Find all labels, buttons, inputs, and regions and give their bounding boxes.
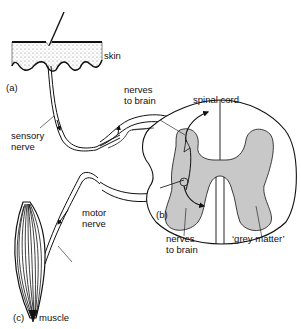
spinal-cord <box>143 100 297 244</box>
label-part-c: (c) <box>13 313 24 323</box>
label-sensory-nerve-line1: sensory <box>11 131 44 141</box>
label-muscle: muscle <box>39 313 69 323</box>
muscle-fibres <box>15 202 45 322</box>
diagram-drawing <box>0 0 301 329</box>
label-motor-nerve-line1: motor <box>82 208 106 218</box>
pin-icon <box>49 12 64 46</box>
label-spinal-cord: spinal cord <box>193 95 239 105</box>
label-nerves-to-brain-top-line2: to brain <box>124 96 156 106</box>
label-skin: skin <box>104 51 121 61</box>
label-grey-matter: ‘grey matter’ <box>232 234 285 244</box>
label-motor-nerve-line2: nerve <box>82 219 106 229</box>
label-nerves-to-brain-top-line1: nerves <box>124 85 153 95</box>
label-sensory-nerve-line2: nerve <box>11 142 35 152</box>
label-part-a: (a) <box>6 83 18 93</box>
reflex-arc-diagram: skin (a) nerves to brain spinal cord sen… <box>0 0 301 329</box>
label-nerves-to-brain-bottom-line1: nerves <box>166 234 195 244</box>
label-part-b: (b) <box>156 210 168 220</box>
label-nerves-to-brain-bottom-line2: to brain <box>166 245 198 255</box>
skin-section <box>12 42 102 71</box>
